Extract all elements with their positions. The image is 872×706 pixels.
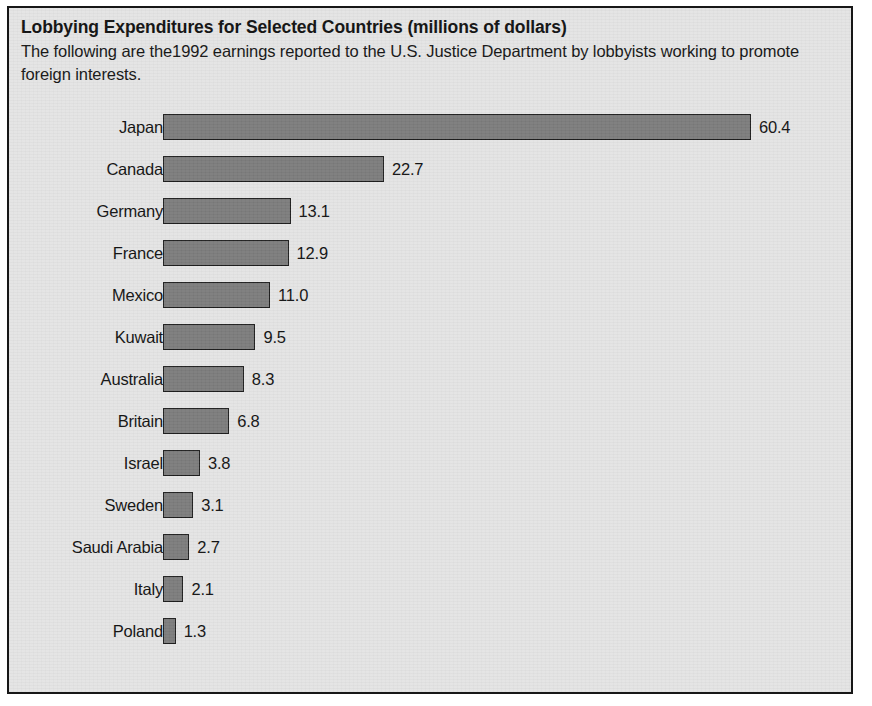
bar <box>163 198 291 224</box>
bar-row: Japan60.4 <box>9 114 851 140</box>
bar-value-label: 2.1 <box>191 576 213 602</box>
bar-category-label: Australia <box>7 366 163 392</box>
bar-category-label: Sweden <box>7 492 163 518</box>
bar-value-label: 6.8 <box>237 408 259 434</box>
bar-value-label: 13.1 <box>299 198 330 224</box>
bar-value-label: 2.7 <box>197 534 219 560</box>
bar <box>163 324 255 350</box>
bar-value-label: 3.8 <box>208 450 230 476</box>
bar <box>163 492 193 518</box>
bar-category-label: Poland <box>7 618 163 644</box>
bar <box>163 450 200 476</box>
bar-row: Germany13.1 <box>9 198 851 224</box>
bar-category-label: Kuwait <box>7 324 163 350</box>
bar <box>163 576 183 602</box>
bar-category-label: Japan <box>7 114 163 140</box>
chart-title: Lobbying Expenditures for Selected Count… <box>21 16 839 38</box>
bar <box>163 156 384 182</box>
bar <box>163 366 244 392</box>
bar-category-label: Canada <box>7 156 163 182</box>
bar-row: Israel3.8 <box>9 450 851 476</box>
bar-value-label: 8.3 <box>252 366 274 392</box>
chart-figure: Lobbying Expenditures for Selected Count… <box>7 6 853 694</box>
bar-row: Kuwait9.5 <box>9 324 851 350</box>
bar-category-label: Britain <box>7 408 163 434</box>
bar-row: Poland1.3 <box>9 618 851 644</box>
bar-row: France12.9 <box>9 240 851 266</box>
bar <box>163 618 176 644</box>
bar <box>163 282 270 308</box>
bar <box>163 534 189 560</box>
bar-category-label: Italy <box>7 576 163 602</box>
bar-value-label: 60.4 <box>759 114 790 140</box>
bar-row: Italy2.1 <box>9 576 851 602</box>
bar-row: Sweden3.1 <box>9 492 851 518</box>
bar-chart-plot: Japan60.4Canada22.7Germany13.1France12.9… <box>9 104 851 692</box>
chart-subtitle: The following are the1992 earnings repor… <box>21 40 836 86</box>
bar-category-label: Israel <box>7 450 163 476</box>
bar-value-label: 9.5 <box>263 324 285 350</box>
bar-row: Australia8.3 <box>9 366 851 392</box>
bar-row: Mexico11.0 <box>9 282 851 308</box>
chart-header: Lobbying Expenditures for Selected Count… <box>21 16 839 86</box>
bar-category-label: Saudi Arabia <box>7 534 163 560</box>
bar-value-label: 12.9 <box>297 240 328 266</box>
bar-value-label: 11.0 <box>278 282 308 308</box>
bar-category-label: France <box>7 240 163 266</box>
bar-row: Saudi Arabia2.7 <box>9 534 851 560</box>
bar-row: Canada22.7 <box>9 156 851 182</box>
bar-category-label: Mexico <box>7 282 163 308</box>
bar <box>163 240 289 266</box>
bar-value-label: 3.1 <box>201 492 223 518</box>
bar-category-label: Germany <box>7 198 163 224</box>
bar-value-label: 22.7 <box>392 156 423 182</box>
bar-value-label: 1.3 <box>184 618 206 644</box>
bar <box>163 408 229 434</box>
bar <box>163 114 751 140</box>
bar-row: Britain6.8 <box>9 408 851 434</box>
